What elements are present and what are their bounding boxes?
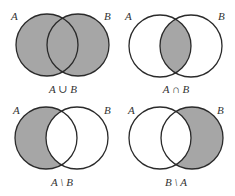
- caption-union: A ∪ B: [48, 83, 77, 95]
- label-a: A: [124, 10, 132, 22]
- label-b: B: [104, 10, 111, 22]
- label-b: B: [104, 104, 111, 116]
- label-a: A: [10, 10, 18, 22]
- caption-b-minus-a: B \ A: [165, 176, 187, 188]
- label-b: B: [217, 104, 224, 116]
- label-a: A: [127, 104, 135, 116]
- caption-intersection: A ∩ B: [162, 83, 190, 95]
- panel-a-minus-b: A B A \ B: [12, 104, 111, 188]
- panel-b-minus-a: A B B \ A: [127, 104, 224, 188]
- label-a: A: [12, 104, 20, 116]
- venn-diagram-grid: A B A ∪ B A B A ∩ B A B A \ B A B B \ A: [0, 0, 235, 196]
- caption-a-minus-b: A \ B: [50, 176, 73, 188]
- label-b: B: [218, 10, 225, 22]
- panel-union: A B A ∪ B: [10, 10, 111, 95]
- panel-intersection: A B A ∩ B: [124, 10, 225, 95]
